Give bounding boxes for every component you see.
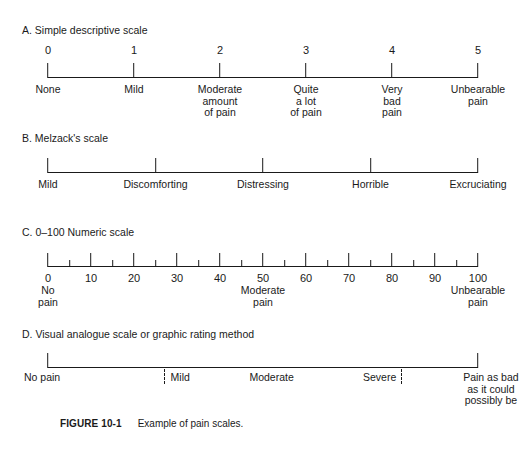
- scale-c-number: 60: [300, 272, 312, 284]
- scale-b-label: Excruciating: [449, 179, 506, 191]
- scale-c-number: 90: [429, 272, 441, 284]
- scale-a-number: 2: [217, 44, 223, 56]
- axis-tick: [47, 158, 48, 173]
- scale-c-title: C. 0–100 Numeric scale: [22, 226, 134, 238]
- axis-tick-major: [90, 253, 91, 267]
- axis-tick: [133, 63, 134, 78]
- scale-b-label: Horrible: [352, 179, 389, 191]
- scale-a-label: Quite a lot of pain: [290, 84, 322, 119]
- axis-tick-minor: [198, 260, 199, 267]
- axis-tick-minor: [413, 260, 414, 267]
- scale-d-title: D. Visual analogue scale or graphic rati…: [22, 328, 254, 340]
- scale-c-number: 20: [128, 272, 140, 284]
- scale-a-axis: [48, 62, 478, 78]
- scale-a-label: Very bad pain: [381, 84, 402, 119]
- axis-tick: [391, 63, 392, 78]
- dashed-bracket-mark-left: [164, 369, 165, 384]
- axis-tick-major: [434, 253, 435, 267]
- scale-d-label: Severe: [363, 372, 396, 384]
- axis-tick-major: [47, 253, 48, 267]
- axis-tick-minor: [241, 260, 242, 267]
- axis-tick: [155, 158, 156, 173]
- axis-tick-major: [219, 253, 220, 267]
- axis-line: [48, 367, 478, 368]
- scale-a-number: 3: [303, 44, 309, 56]
- axis-tick: [477, 158, 478, 173]
- axis-tick: [47, 353, 48, 368]
- scale-a-label: Mild: [124, 84, 143, 96]
- scale-c-number: 0: [45, 272, 51, 284]
- scale-b-title: B. Melzack's scale: [22, 132, 108, 144]
- scale-a-number: 4: [389, 44, 395, 56]
- figure-caption-text: Example of pain scales.: [138, 418, 244, 429]
- figure-caption: FIGURE 10-1Example of pain scales.: [60, 418, 243, 430]
- scale-b-label: Mild: [38, 179, 57, 191]
- scale-b-label: Discomforting: [123, 179, 187, 191]
- pain-scales-figure: A. Simple descriptive scale 0 1 2 3 4 5 …: [0, 0, 528, 450]
- axis-tick: [219, 63, 220, 78]
- axis-tick: [477, 63, 478, 78]
- scale-c-number: 30: [171, 272, 183, 284]
- scale-a-number: 1: [131, 44, 137, 56]
- figure-caption-label: FIGURE 10-1: [60, 418, 122, 429]
- scale-b-axis: [48, 157, 478, 173]
- axis-tick-major: [305, 253, 306, 267]
- scale-a-label: None: [35, 84, 60, 96]
- scale-c-axis: [48, 251, 478, 267]
- scale-c-number: 80: [386, 272, 398, 284]
- scale-c-number: 70: [343, 272, 355, 284]
- axis-tick-major: [348, 253, 349, 267]
- axis-tick-major: [477, 253, 478, 267]
- scale-c-number: 100: [469, 272, 487, 284]
- axis-line: [48, 77, 478, 78]
- axis-tick-major: [133, 253, 134, 267]
- axis-tick-minor: [284, 260, 285, 267]
- scale-d-axis: [48, 352, 478, 368]
- scale-c-number: 50: [257, 272, 269, 284]
- axis-tick-minor: [327, 260, 328, 267]
- scale-a-label: Moderate amount of pain: [198, 84, 242, 119]
- axis-tick: [47, 63, 48, 78]
- scale-c-label: Unbearable pain: [451, 285, 505, 308]
- scale-c-number: 40: [214, 272, 226, 284]
- axis-tick-minor: [456, 260, 457, 267]
- axis-tick: [370, 158, 371, 173]
- scale-c-label: No pain: [38, 285, 58, 308]
- axis-tick-major: [176, 253, 177, 267]
- scale-b-label: Distressing: [237, 179, 289, 191]
- axis-tick: [262, 158, 263, 173]
- scale-a-title: A. Simple descriptive scale: [22, 24, 147, 36]
- axis-tick-minor: [155, 260, 156, 267]
- scale-c-number: 10: [85, 272, 97, 284]
- dashed-bracket-mark-right: [401, 369, 402, 384]
- scale-c-label: Moderate pain: [241, 285, 285, 308]
- axis-tick-major: [391, 253, 392, 267]
- scale-a-label: Unbearable pain: [451, 84, 505, 107]
- scale-d-label: No pain: [24, 372, 60, 384]
- axis-tick-minor: [112, 260, 113, 267]
- axis-tick: [477, 353, 478, 368]
- scale-a-number: 5: [475, 44, 481, 56]
- axis-tick-minor: [69, 260, 70, 267]
- axis-tick-minor: [370, 260, 371, 267]
- scale-a-number: 0: [45, 44, 51, 56]
- scale-d-label: Moderate: [249, 372, 293, 384]
- scale-d-label: Mild: [171, 372, 190, 384]
- axis-tick-major: [262, 253, 263, 267]
- axis-tick: [305, 63, 306, 78]
- scale-d-label: Pain as bad as it could possibly be: [463, 372, 518, 407]
